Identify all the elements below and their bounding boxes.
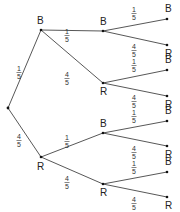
node-label-b: B xyxy=(165,54,172,65)
node-label-r: R xyxy=(100,187,107,198)
tree-branch xyxy=(41,30,103,31)
fraction-numerator: 1 xyxy=(132,6,136,13)
tree-branch xyxy=(41,30,103,83)
node-dot xyxy=(102,183,105,186)
branch-probability: 15 xyxy=(132,109,137,124)
node-dot xyxy=(166,145,169,148)
tree-branch xyxy=(41,157,103,184)
fraction-denominator: 5 xyxy=(65,183,69,190)
fraction-denominator: 5 xyxy=(65,142,69,149)
fraction-numerator: 4 xyxy=(132,43,136,50)
node-label-b: B xyxy=(37,15,44,26)
fraction-denominator: 5 xyxy=(132,117,136,124)
branch-probability: 15 xyxy=(132,160,137,175)
branch-probability: 45 xyxy=(132,145,137,160)
fraction-numerator: 4 xyxy=(132,94,136,101)
fraction-denominator: 5 xyxy=(132,51,136,58)
tree-branch xyxy=(41,133,103,157)
node-dot xyxy=(166,44,169,47)
fraction-denominator: 5 xyxy=(65,36,69,43)
probability-tree-diagram: 1545154515451545154515451545 BRBRBRBRBRB… xyxy=(0,0,180,212)
node-label-b: B xyxy=(165,105,172,116)
branch-probability: 45 xyxy=(65,71,70,86)
fraction-denominator: 5 xyxy=(132,102,136,109)
fraction-numerator: 1 xyxy=(132,160,136,167)
fraction-numerator: 1 xyxy=(65,134,69,141)
node-label-b: B xyxy=(165,3,172,14)
root-node-dot xyxy=(7,107,10,110)
branch-probability: 15 xyxy=(65,28,70,43)
node-dot xyxy=(102,132,105,135)
fraction-numerator: 1 xyxy=(17,65,21,72)
fraction-numerator: 1 xyxy=(132,109,136,116)
node-dot xyxy=(40,29,43,32)
fraction-numerator: 4 xyxy=(65,175,69,182)
node-label-r: R xyxy=(100,86,107,97)
branch-probability: 15 xyxy=(132,6,137,21)
node-dot xyxy=(166,171,169,174)
node-label-r: R xyxy=(37,161,44,172)
fraction-numerator: 4 xyxy=(132,145,136,152)
branch-probability: 15 xyxy=(65,134,70,149)
node-dot xyxy=(102,30,105,33)
fraction-numerator: 4 xyxy=(132,196,136,203)
fraction-denominator: 5 xyxy=(132,14,136,21)
fraction-numerator: 1 xyxy=(65,28,69,35)
branch-probability: 45 xyxy=(65,175,70,190)
tree-edges xyxy=(8,19,167,197)
fraction-numerator: 4 xyxy=(65,71,69,78)
branch-probability: 45 xyxy=(132,196,137,211)
tree-node-labels: BRBRBRBRBRBRBR xyxy=(37,3,172,211)
tree-node-dots xyxy=(7,18,169,199)
fraction-denominator: 5 xyxy=(132,168,136,175)
tree-branch xyxy=(8,108,41,157)
branch-probability: 15 xyxy=(132,58,137,73)
branch-probability: 45 xyxy=(132,94,137,109)
branch-probabilities: 1545154515451545154515451545 xyxy=(17,6,137,211)
fraction-denominator: 5 xyxy=(17,141,21,148)
branch-probability: 45 xyxy=(17,133,22,148)
fraction-denominator: 5 xyxy=(65,79,69,86)
branch-probability: 45 xyxy=(132,43,137,58)
fraction-numerator: 4 xyxy=(17,133,21,140)
node-label-r: R xyxy=(165,200,172,211)
fraction-denominator: 5 xyxy=(132,153,136,160)
node-dot xyxy=(102,82,105,85)
fraction-numerator: 1 xyxy=(132,58,136,65)
node-dot xyxy=(166,95,169,98)
node-dot xyxy=(40,156,43,159)
node-label-b: B xyxy=(100,16,107,27)
node-dot xyxy=(166,196,169,199)
node-label-b: B xyxy=(165,156,172,167)
fraction-denominator: 5 xyxy=(132,66,136,73)
tree-branch xyxy=(8,30,41,108)
branch-probability: 15 xyxy=(17,65,22,80)
node-dot xyxy=(166,69,169,72)
fraction-denominator: 5 xyxy=(17,73,21,80)
node-label-b: B xyxy=(100,118,107,129)
node-dot xyxy=(166,120,169,123)
fraction-denominator: 5 xyxy=(132,204,136,211)
node-dot xyxy=(166,18,169,21)
